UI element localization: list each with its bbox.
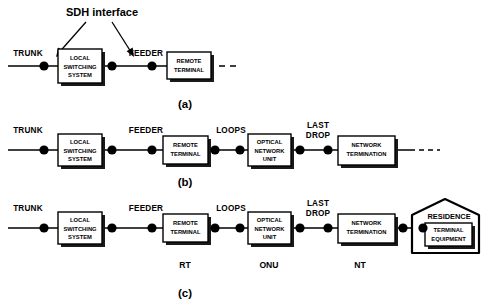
panel-b-loops-label: LOOPS	[216, 126, 246, 135]
nt-c-line-1: NETWORK	[352, 220, 383, 226]
panel-c-box-terminal-equipment: TERMINAL EQUIPMENT	[425, 223, 475, 249]
sdh-interface-callout-label: SDH interface	[66, 6, 138, 18]
panel-b-box-local-switching-system: LOCAL SWITCHING SYSTEM	[58, 134, 105, 169]
panel-a-node-sdh	[107, 61, 116, 70]
panel-a-node-trunk	[39, 61, 48, 70]
panel-b-box-network-termination: NETWORK TERMINATION	[338, 136, 398, 168]
residence-label: RESIDENCE	[427, 212, 470, 221]
onu-b-line-3: UNIT	[263, 156, 277, 162]
panel-c-loops-label: LOOPS	[216, 204, 246, 213]
nt-c-line-2: TERMINATION	[347, 229, 387, 235]
onu-c-line-3: UNIT	[263, 234, 277, 240]
panel-c-caption: (c)	[178, 287, 192, 299]
panel-b-box-remote-terminal: REMOTE TERMINAL	[163, 136, 211, 167]
panel-c-box-remote-terminal: REMOTE TERMINAL	[163, 214, 211, 245]
panel-c-node-trunk	[39, 223, 48, 232]
abbr-label-onu: ONU	[259, 260, 278, 270]
panel-b-feeder-label: FEEDER	[129, 126, 163, 135]
panel-c-node-loops	[235, 223, 244, 232]
panel-b-node-sdh	[107, 145, 116, 154]
rt-line-1: REMOTE	[177, 58, 202, 64]
rt-c-line-2: TERMINAL	[171, 229, 201, 235]
panel-a-trunk-label: TRUNK	[13, 49, 43, 58]
lss-c-line-3: SYSTEM	[68, 234, 92, 240]
panel-b-node-lastdrop	[323, 145, 332, 154]
onu-c-line-1: OPTICAL	[257, 217, 283, 223]
lss-c-line-1: LOCAL	[70, 217, 90, 223]
access-network-evolution-figure: SDH interface TRUNK FEEDER	[0, 0, 488, 307]
panel-c: TRUNK FEEDER LOOPS LAST DROP LOCAL SWITC…	[8, 199, 479, 299]
panel-a-feeder-label: FEEDER	[129, 49, 163, 58]
rt-line-2: TERMINAL	[174, 67, 204, 73]
abbr-label-rt: RT	[179, 260, 191, 270]
panel-a-node-feeder	[147, 61, 156, 70]
nt-b-line-2: TERMINATION	[347, 151, 387, 157]
lss-line-3: SYSTEM	[68, 72, 92, 78]
panel-b-node-feeder	[147, 145, 156, 154]
abbr-label-nt: NT	[354, 260, 366, 270]
onu-b-line-2: NETWORK	[255, 148, 286, 154]
te-line-1: TERMINAL	[434, 227, 464, 233]
rt-b-line-1: REMOTE	[173, 142, 198, 148]
panel-c-lastdrop-line1: LAST	[307, 199, 329, 208]
lss-line-2: SWITCHING	[63, 64, 97, 70]
panel-c-feeder-label: FEEDER	[129, 204, 163, 213]
onu-c-line-2: NETWORK	[255, 226, 286, 232]
diagram-canvas: SDH interface TRUNK FEEDER	[0, 0, 488, 307]
nt-b-line-1: NETWORK	[352, 142, 383, 148]
panel-c-trunk-label: TRUNK	[13, 204, 43, 213]
panel-c-node-lastdrop	[323, 223, 332, 232]
panel-c-box-local-switching-system: LOCAL SWITCHING SYSTEM	[58, 212, 105, 247]
panel-a-box-remote-terminal: REMOTE TERMINAL	[167, 52, 214, 82]
panel-c-node-residence	[418, 223, 427, 232]
panel-b-lastdrop-line1: LAST	[307, 121, 329, 130]
panel-b-node-trunk	[39, 145, 48, 154]
panel-c-box-optical-network-unit: OPTICAL NETWORK UNIT	[248, 212, 294, 247]
panel-c-box-network-termination: NETWORK TERMINATION	[338, 214, 398, 246]
panel-b: TRUNK FEEDER LOOPS LAST DROP LOCAL SWITC…	[8, 121, 440, 188]
panel-b-node-loops	[235, 145, 244, 154]
panel-c-node-rt-out	[210, 223, 219, 232]
panel-b-caption: (b)	[178, 176, 193, 188]
panel-b-lastdrop-line2: DROP	[306, 131, 331, 140]
panel-b-box-optical-network-unit: OPTICAL NETWORK UNIT	[248, 134, 294, 169]
panel-c-node-sdh	[107, 223, 116, 232]
lss-c-line-2: SWITCHING	[63, 226, 97, 232]
panel-b-node-onu-out	[295, 145, 304, 154]
panel-b-trunk-label: TRUNK	[13, 126, 43, 135]
panel-c-node-feeder	[147, 223, 156, 232]
rt-b-line-2: TERMINAL	[171, 151, 201, 157]
te-line-2: EQUIPMENT	[431, 236, 466, 242]
panel-c-lastdrop-line2: DROP	[306, 209, 331, 218]
panel-c-node-nt-out	[398, 223, 407, 232]
lss-b-line-2: SWITCHING	[63, 148, 97, 154]
panel-c-node-onu-out	[295, 223, 304, 232]
panel-a: SDH interface TRUNK FEEDER	[8, 6, 240, 110]
onu-b-line-1: OPTICAL	[257, 139, 283, 145]
panel-b-node-rt-out	[210, 145, 219, 154]
panel-a-box-local-switching-system: LOCAL SWITCHING SYSTEM	[58, 49, 105, 86]
lss-b-line-3: SYSTEM	[68, 156, 92, 162]
rt-c-line-1: REMOTE	[173, 220, 198, 226]
panel-a-caption: (a)	[178, 98, 192, 110]
lss-line-1: LOCAL	[70, 55, 90, 61]
lss-b-line-1: LOCAL	[70, 139, 90, 145]
